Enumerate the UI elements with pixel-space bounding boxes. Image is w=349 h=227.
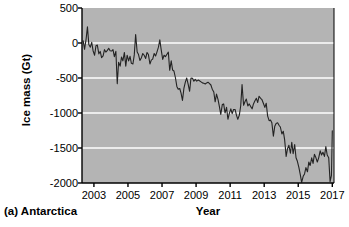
x-tick-label: 2003	[82, 190, 106, 201]
x-tick-label: 2015	[286, 190, 310, 201]
x-tick-label: 2011	[218, 190, 242, 201]
figure-caption: (a) Antarctica	[4, 205, 77, 217]
x-tick-label: 2013	[252, 190, 276, 201]
x-tick-label: 2005	[116, 190, 140, 201]
x-tick-label: 2007	[150, 190, 174, 201]
x-tick-label: 2017	[320, 190, 344, 201]
figure-antarctica-ice-mass: Ice mass (Gt) 5000-500-1000-1500-2000 20…	[0, 0, 349, 227]
x-tick-labels: 20032005200720092011201320152017	[0, 0, 349, 227]
x-axis-title: Year	[196, 205, 220, 217]
x-tick-label: 2009	[184, 190, 208, 201]
